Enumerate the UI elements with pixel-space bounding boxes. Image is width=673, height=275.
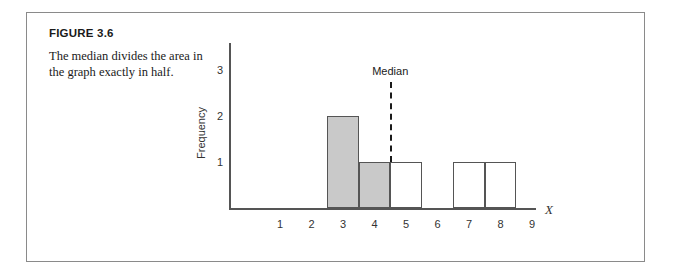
- x-tick-label: 8: [491, 218, 511, 230]
- figure-box: FIGURE 3.6 The median divides the area i…: [26, 12, 645, 262]
- median-annotation-label: Median: [372, 65, 408, 77]
- y-axis-title: Frequency: [195, 107, 207, 159]
- y-tick-label: 2: [205, 110, 223, 122]
- x-axis-title: X: [545, 202, 553, 218]
- x-tick-label: 3: [333, 218, 353, 230]
- x-tick-label: 6: [428, 218, 448, 230]
- y-tick-label: 3: [205, 64, 223, 76]
- x-tick-label: 5: [396, 218, 416, 230]
- median-dashed-line: [390, 82, 392, 163]
- y-tick-label: 1: [205, 156, 223, 168]
- x-tick-label: 2: [302, 218, 322, 230]
- histogram-bar: [390, 162, 422, 208]
- histogram-plot: 123 123456789 Median Frequency X: [27, 13, 646, 263]
- histogram-bar: [485, 162, 517, 208]
- x-tick-label: 4: [365, 218, 385, 230]
- x-tick-label: 7: [459, 218, 479, 230]
- x-tick-label: 9: [522, 218, 542, 230]
- y-axis-line: [229, 43, 231, 209]
- x-axis-tick-labels: 123456789: [229, 218, 539, 238]
- histogram-bar: [327, 116, 359, 208]
- histogram-bar: [453, 162, 485, 208]
- histogram-bar: [359, 162, 391, 208]
- x-axis-line: [229, 208, 536, 210]
- x-tick-label: 1: [270, 218, 290, 230]
